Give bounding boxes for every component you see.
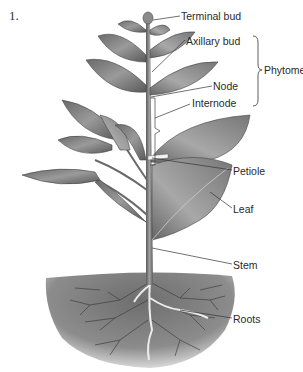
leaves — [22, 21, 250, 240]
soil-mass — [46, 272, 235, 368]
label-stem: Stem — [233, 260, 258, 271]
label-axillary-bud: Axillary bud — [186, 36, 240, 47]
label-internode: Internode — [192, 98, 236, 109]
label-roots: Roots — [233, 314, 260, 325]
phytomer-bracket — [253, 36, 262, 106]
label-phytomer: Phytomer — [264, 65, 303, 76]
label-petiole: Petiole — [233, 166, 265, 177]
terminal-bud — [143, 12, 153, 24]
main-stem — [146, 20, 153, 285]
label-leaf: Leaf — [233, 204, 253, 215]
label-node: Node — [213, 81, 238, 92]
label-terminal-bud: Terminal bud — [181, 11, 241, 22]
